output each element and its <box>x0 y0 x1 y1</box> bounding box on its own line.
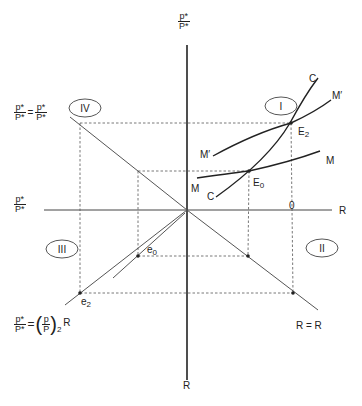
curve-C <box>216 78 318 197</box>
curve-label-Mprime-right: M′ <box>332 90 342 101</box>
line-quadrant-ii <box>187 210 318 310</box>
point-e0 <box>136 254 140 258</box>
point-e2 <box>78 291 82 295</box>
curve-label-Mprime-left: M′ <box>200 149 210 160</box>
curve-label-M-right: M <box>326 155 334 166</box>
label-e0: e0 <box>147 244 158 257</box>
right-paren: ) <box>50 314 57 334</box>
point-quadrant-ii-outer <box>291 291 295 295</box>
axis-label-left: p* P* <box>14 195 26 214</box>
four-quadrant-diagram: IV I III II C C M′ M′ M M E2 E0 e0 e2 R … <box>0 0 362 406</box>
quadrant-label-i: I <box>280 101 283 112</box>
equation-quadrant-ii: R = R <box>296 320 322 331</box>
equation-quadrant-iv: p* P* = p* P* <box>14 103 47 122</box>
point-E2 <box>289 121 293 125</box>
origin-tick-label: 0 <box>289 200 295 211</box>
line-quadrant-iii-outer <box>65 210 187 305</box>
axis-label-right: R <box>339 205 346 216</box>
point-E0 <box>247 169 251 173</box>
quadrant-label-iii: III <box>58 244 66 255</box>
curve-label-M-left: M <box>191 183 199 194</box>
equation-quadrant-iii: p* P* = ( p P ) 2 R <box>14 314 71 334</box>
axis-label-top: p* P* <box>178 12 190 31</box>
left-paren: ( <box>36 314 43 334</box>
quadrant-label-iv: IV <box>80 103 90 114</box>
line-quadrant-iv <box>70 117 187 210</box>
quadrant-label-ii: II <box>319 243 325 254</box>
label-E2: E2 <box>298 126 310 139</box>
point-quadrant-ii-inner <box>246 254 250 258</box>
label-e2: e2 <box>81 296 92 309</box>
axis-label-bottom: R <box>183 380 190 391</box>
curve-label-C-bottom: C <box>207 191 214 202</box>
label-E0: E0 <box>253 177 265 190</box>
curve-label-C-top: C <box>309 73 316 84</box>
